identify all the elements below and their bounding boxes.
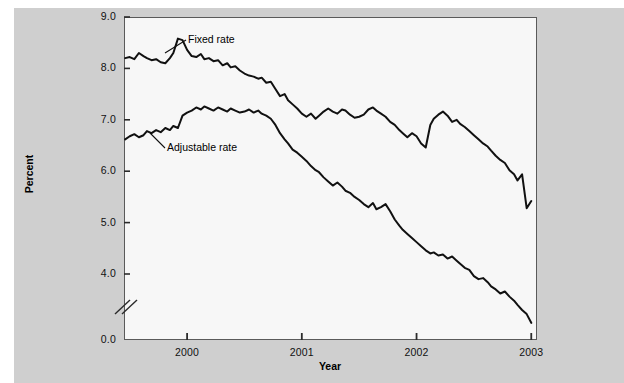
x-tick-label: 2000 bbox=[162, 346, 212, 358]
y-tick-label: 7.0 bbox=[82, 113, 116, 125]
series-annotation-fixed-rate: Fixed rate bbox=[188, 33, 235, 45]
data-series-group bbox=[125, 39, 531, 323]
y-tick-label: 5.0 bbox=[82, 216, 116, 228]
x-tick-label: 2002 bbox=[392, 346, 442, 358]
y-tick-label: 6.0 bbox=[82, 164, 116, 176]
x-axis-title: Year bbox=[280, 360, 380, 372]
y-tick-label: 0.0 bbox=[82, 333, 116, 345]
x-tick-label: 2001 bbox=[277, 346, 327, 358]
y-tick-label: 8.0 bbox=[82, 61, 116, 73]
x-tick-label: 2003 bbox=[506, 346, 556, 358]
annotation-leader-lines bbox=[150, 40, 186, 148]
chart-svg bbox=[0, 0, 624, 383]
series-annotation-adjustable-rate: Adjustable rate bbox=[167, 141, 237, 153]
y-tick-label: 4.0 bbox=[82, 267, 116, 279]
figure-root: Percent Year 0.04.05.06.07.08.09.0 20002… bbox=[0, 0, 624, 383]
y-axis-break-marker bbox=[115, 300, 137, 314]
y-axis-title: Percent bbox=[23, 129, 35, 219]
axis-ticks bbox=[124, 17, 531, 340]
series-line-adjustable-rate bbox=[125, 106, 531, 322]
y-tick-label: 9.0 bbox=[82, 10, 116, 22]
